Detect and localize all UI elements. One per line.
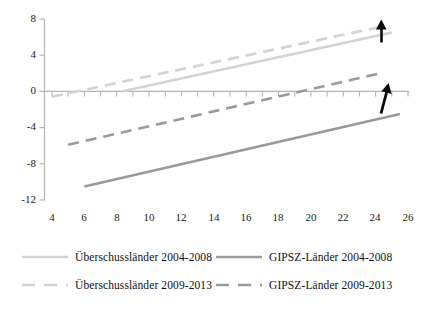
x-tick-label-8: 8 — [101, 212, 133, 223]
legend-label: GIPSZ-Länder 2004-2008 — [269, 251, 392, 263]
x-tick-label-20: 20 — [295, 212, 327, 223]
x-tick-label-10: 10 — [133, 212, 165, 223]
x-tick-label-22: 22 — [327, 212, 359, 223]
x-tick-label-16: 16 — [230, 212, 262, 223]
legend-key-dashed-light-icon — [22, 279, 68, 291]
legend-item-uberschusslaender-2009-2013[interactable]: Überschussländer 2009-2013 — [22, 271, 212, 298]
series-line-0 — [122, 33, 392, 92]
legend-label: GIPSZ-Länder 2009-2013 — [269, 279, 392, 291]
legend-label: Überschussländer 2009-2013 — [75, 279, 212, 291]
x-tick-label-24: 24 — [359, 212, 391, 223]
x-tick-label-12: 12 — [165, 212, 197, 223]
x-tick-label-26: 26 — [392, 212, 422, 223]
up-arrow-lower-icon — [381, 83, 392, 114]
chart-legend: Überschussländer 2004-2008 GIPSZ-Länder … — [0, 243, 422, 305]
legend-item-gipsz-laender-2004-2008[interactable]: GIPSZ-Länder 2004-2008 — [216, 243, 392, 270]
legend-item-uberschusslaender-2004-2008[interactable]: Überschussländer 2004-2008 — [22, 243, 212, 270]
y-tick-label-8: 8 — [8, 13, 36, 24]
series-line-2 — [52, 26, 384, 97]
y-tick-label-neg4: -4 — [8, 121, 36, 132]
y-tick-label-4: 4 — [8, 49, 36, 60]
series-layer — [52, 26, 400, 186]
y-axis-ticks — [40, 19, 45, 200]
x-tick-label-4: 4 — [36, 212, 68, 223]
legend-row-1: Überschussländer 2004-2008 GIPSZ-Länder … — [0, 243, 422, 270]
y-tick-label-neg8: -8 — [8, 158, 36, 169]
x-axis-ticks — [52, 91, 408, 96]
series-line-1 — [84, 114, 400, 186]
legend-item-gipsz-laender-2009-2013[interactable]: GIPSZ-Länder 2009-2013 — [216, 271, 392, 298]
legend-label: Überschussländer 2004-2008 — [75, 251, 212, 263]
x-tick-label-6: 6 — [68, 212, 100, 223]
y-tick-label-0: 0 — [8, 85, 36, 96]
legend-key-dashed-dark-icon — [216, 279, 262, 291]
chart-container: 8 4 0 -4 -8 -12 4 6 8 10 12 14 16 18 20 … — [0, 0, 422, 310]
legend-key-solid-dark-icon — [216, 251, 262, 263]
x-tick-label-18: 18 — [262, 212, 294, 223]
legend-key-solid-light-icon — [22, 251, 68, 263]
legend-row-2: Überschussländer 2009-2013 GIPSZ-Länder … — [0, 271, 422, 298]
up-arrow-upper-icon — [376, 20, 387, 43]
x-tick-label-14: 14 — [198, 212, 230, 223]
y-tick-label-neg12: -12 — [8, 194, 36, 205]
